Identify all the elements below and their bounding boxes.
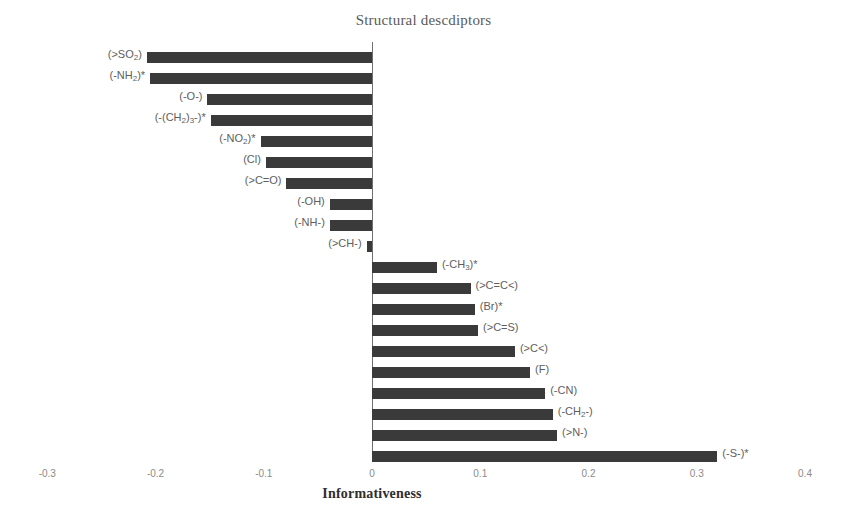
bar-row: (>C=O) <box>0 173 847 194</box>
bar <box>330 220 372 231</box>
bar-label: (-NH-) <box>294 216 325 229</box>
x-axis: -0.3-0.2-0.100.10.20.30.4 <box>0 462 847 463</box>
x-tick-label: 0 <box>342 468 402 479</box>
bar <box>330 199 372 210</box>
x-tick-label: -0.1 <box>234 468 294 479</box>
bar-label: (-S-)* <box>722 447 748 460</box>
x-tick-label: 0.3 <box>667 468 727 479</box>
bar <box>286 178 372 189</box>
bar-row: (Cl) <box>0 152 847 173</box>
bar-label: (-O-) <box>179 90 202 103</box>
chart-title: Structural descdiptors <box>0 12 847 29</box>
bar-row: (-CH3)* <box>0 257 847 278</box>
bar-label: (-NH2)* <box>109 69 145 85</box>
x-tick-label: -0.3 <box>17 468 77 479</box>
bar <box>211 115 372 126</box>
bar-label: (-CN) <box>550 384 577 397</box>
bar-row: (-CN) <box>0 383 847 404</box>
bar <box>372 409 553 420</box>
bar-row: (>C=C<) <box>0 278 847 299</box>
bar-row: (>C=S) <box>0 320 847 341</box>
bar-row: (>C<) <box>0 341 847 362</box>
bar-row: (-NO2)* <box>0 131 847 152</box>
bar-row: (-OH) <box>0 194 847 215</box>
bar <box>372 304 475 315</box>
bar <box>207 94 372 105</box>
bar-label: (-OH) <box>297 195 325 208</box>
bar-label: (>N-) <box>562 426 587 439</box>
x-tick-label: 0.1 <box>450 468 510 479</box>
bar-row: (>CH-) <box>0 236 847 257</box>
plot-area: (>SO2)(-NH2)*(-O-)(-(CH2)3-)*(-NO2)*(Cl)… <box>0 42 847 462</box>
x-tick-label: 0.2 <box>559 468 619 479</box>
bar-label: (>C=O) <box>245 174 282 187</box>
bar-row: (-NH2)* <box>0 68 847 89</box>
bar-label: (>SO2) <box>108 48 142 64</box>
bar <box>150 73 372 84</box>
bar-label: (-NO2)* <box>219 132 255 148</box>
bar <box>372 346 515 357</box>
bar-row: (-CH2-) <box>0 404 847 425</box>
bar-label: (-(CH2)3-)* <box>155 111 206 127</box>
bar <box>261 136 372 147</box>
bar-row: (-O-) <box>0 89 847 110</box>
bar <box>372 262 437 273</box>
chart-root: Structural descdiptors (>SO2)(-NH2)*(-O-… <box>0 0 847 528</box>
bar-row: (>N-) <box>0 425 847 446</box>
bar <box>147 52 372 63</box>
bar <box>372 430 557 441</box>
bar-row: (F) <box>0 362 847 383</box>
x-axis-title: Informativeness <box>0 486 744 502</box>
bar <box>372 388 545 399</box>
bar-label: (-CH2-) <box>558 405 593 421</box>
bar-row: (-(CH2)3-)* <box>0 110 847 131</box>
bar-label: (Br)* <box>480 300 503 313</box>
bar <box>372 367 530 378</box>
bar-row: (-S-)* <box>0 446 847 467</box>
bar-label: (F) <box>535 363 549 376</box>
bar-label: (>C=S) <box>483 321 518 334</box>
bar <box>372 325 478 336</box>
x-tick-label: 0.4 <box>775 468 835 479</box>
bar-label: (>C=C<) <box>476 279 519 292</box>
bar-row: (-NH-) <box>0 215 847 236</box>
bar <box>372 451 717 462</box>
bar <box>367 241 372 252</box>
bar <box>372 283 471 294</box>
bar-label: (>CH-) <box>328 237 361 250</box>
bar-label: (>C<) <box>520 342 548 355</box>
bar <box>266 157 372 168</box>
bar-label: (Cl) <box>243 153 261 166</box>
x-tick-label: -0.2 <box>126 468 186 479</box>
bar-label: (-CH3)* <box>442 258 478 274</box>
bar-row: (Br)* <box>0 299 847 320</box>
bar-row: (>SO2) <box>0 47 847 68</box>
